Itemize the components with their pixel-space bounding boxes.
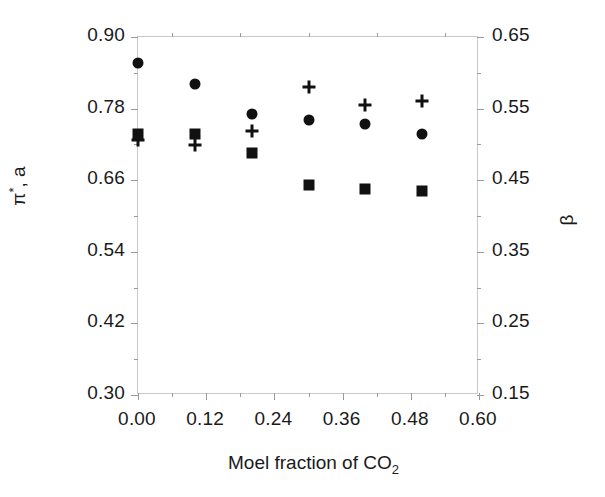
x-axis-tick [411,393,412,400]
y-axis-right-tick [477,37,484,38]
data-point-circle [189,79,200,90]
data-point-plus [188,138,201,151]
x-axis-top-minor-tick [309,33,310,37]
y-axis-left-tick [131,323,138,324]
y-axis-left-minor-tick [134,288,138,289]
y-axis-left-title: π*, a [6,166,30,205]
y-axis-right-ticklabel: 0.15 [492,382,564,404]
x-axis-top-minor-tick [240,33,241,37]
data-point-square [360,184,371,195]
y-axis-right-tick [477,252,484,253]
data-point-plus [416,94,429,107]
x-axis-top-minor-tick [172,33,173,37]
x-axis-tick [206,393,207,400]
x-axis-minor-tick [309,393,310,397]
y-axis-left-ticklabel: 0.78 [53,96,125,118]
y-axis-left-ticklabel: 0.54 [53,239,125,261]
x-axis-tick [343,393,344,400]
y-axis-left-ticklabel: 0.90 [53,24,125,46]
y-axis-right-ticklabel: 0.55 [492,96,564,118]
x-axis-minor-tick [240,393,241,397]
y-axis-right-ticklabel: 0.65 [492,24,564,46]
y-axis-right-ticklabel: 0.25 [492,310,564,332]
data-point-circle [360,119,371,130]
y-axis-left-tick [131,180,138,181]
y-axis-left-tick [131,37,138,38]
y-axis-left-title-rest: , a [8,166,29,187]
data-point-square [417,185,428,196]
data-point-circle [417,128,428,139]
y-axis-right-ticklabel: 0.45 [492,167,564,189]
y-axis-left-tick [131,395,138,396]
x-axis-minor-tick [445,393,446,397]
y-axis-right-tick [477,180,484,181]
y-axis-right-minor-tick [477,216,481,217]
y-axis-right-tick [477,323,484,324]
data-point-circle [303,114,314,125]
y-axis-left-tick [131,252,138,253]
y-axis-right-ticklabel: 0.35 [492,239,564,261]
y-axis-left-ticklabel: 0.42 [53,310,125,332]
data-point-plus [245,125,258,138]
y-axis-right-tick [477,109,484,110]
y-axis-left-title-star: * [6,187,21,192]
y-axis-left-minor-tick [134,216,138,217]
x-axis-ticklabel: 0.60 [438,408,518,430]
data-point-circle [133,58,144,69]
y-axis-left-title-pi: π [8,193,29,206]
data-point-plus [359,99,372,112]
data-point-square [303,179,314,190]
y-axis-left-ticklabel: 0.30 [53,382,125,404]
x-axis-tick [479,393,480,400]
plot-area [137,36,478,394]
y-axis-left-minor-tick [134,73,138,74]
x-axis-minor-tick [172,393,173,397]
y-axis-left-tick [131,109,138,110]
x-axis-title-subscript: 2 [392,462,399,477]
data-point-plus [132,134,145,147]
data-point-square [246,147,257,158]
x-axis-title: Moel fraction of CO2 [0,452,605,477]
y-axis-right-minor-tick [477,144,481,145]
x-axis-top-minor-tick [445,33,446,37]
data-point-circle [246,108,257,119]
y-axis-right-minor-tick [477,73,481,74]
x-axis-title-text: Moel fraction of CO [228,452,392,473]
data-point-plus [302,81,315,94]
y-axis-right-minor-tick [477,288,481,289]
scatter-chart-figure: π*, a β Moel fraction of CO2 0.900.780.6… [0,0,605,497]
y-axis-right-title: β [556,215,578,226]
y-axis-left-minor-tick [134,359,138,360]
y-axis-left-ticklabel: 0.66 [53,167,125,189]
x-axis-minor-tick [377,393,378,397]
x-axis-tick [138,393,139,400]
x-axis-tick [274,393,275,400]
x-axis-top-minor-tick [377,33,378,37]
y-axis-right-minor-tick [477,359,481,360]
